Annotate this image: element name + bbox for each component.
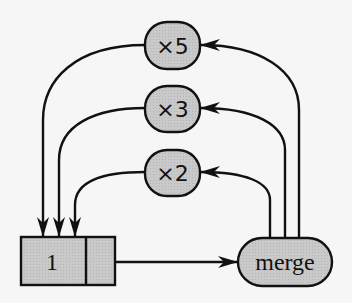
node-times3-label: ×3 — [156, 97, 188, 122]
node-times5: ×5 — [145, 22, 200, 69]
node-times2: ×2 — [145, 150, 200, 196]
node-merge: merge — [238, 238, 332, 286]
node-times5-label: ×5 — [156, 34, 188, 59]
node-times2-label: ×2 — [156, 161, 188, 186]
merge-label: merge — [255, 249, 315, 275]
node-stream-cell: 1 — [21, 237, 115, 285]
stream-cell-head-label: 1 — [46, 249, 58, 275]
edge-times2-to-cell — [75, 172, 145, 236]
node-times3: ×3 — [145, 86, 200, 132]
dataflow-diagram: ×5 ×3 ×2 1 merge — [0, 0, 352, 303]
edge-merge-to-times2 — [201, 172, 270, 238]
